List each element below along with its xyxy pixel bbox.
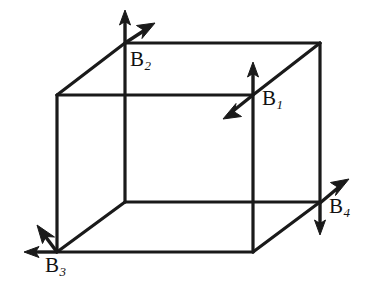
cube-diagram-svg <box>0 0 367 293</box>
cube-edge-connector-bottom-right <box>253 202 320 252</box>
cube-edges <box>57 43 320 252</box>
b3-up-left-arrow-head <box>37 225 55 244</box>
vertex-label-b3-letter: B <box>45 253 59 277</box>
cube-edge-connector-bottom-left <box>57 202 125 252</box>
vertex-label-b4: B4 <box>329 196 350 219</box>
vertex-label-b2: B2 <box>130 49 151 72</box>
cube-edge-connector-top-left <box>57 43 125 95</box>
cube-vector-figure: B1 B2 B3 B4 <box>0 0 367 293</box>
vertex-label-b2-subscript: 2 <box>144 58 151 73</box>
vertex-label-b1: B1 <box>262 88 283 111</box>
b3-up-left-arrow-shaft <box>45 236 57 252</box>
vector-group-b2 <box>120 10 156 43</box>
vertex-label-b1-letter: B <box>262 86 276 110</box>
vertex-label-b2-letter: B <box>130 47 144 71</box>
vertex-label-b3: B3 <box>45 255 66 278</box>
b2-up-right-arrow-head <box>137 23 156 39</box>
vertex-label-b3-subscript: 3 <box>59 264 66 279</box>
vertex-label-b4-letter: B <box>329 194 343 218</box>
vertex-label-b4-subscript: 4 <box>343 205 350 220</box>
vertex-label-b1-subscript: 1 <box>276 97 283 112</box>
